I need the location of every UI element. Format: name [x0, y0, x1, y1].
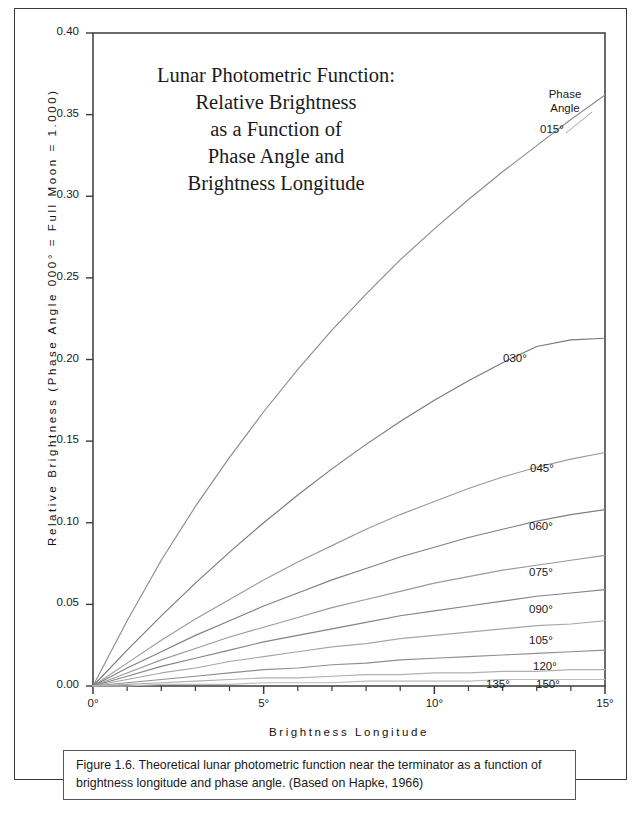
- y-tick-label: 0.25: [37, 270, 79, 282]
- legend-title-line-2: Angle: [530, 102, 600, 116]
- series-label-105°: 105°: [529, 634, 553, 646]
- series-label-075°: 075°: [529, 566, 553, 578]
- figure-caption-text: Figure 1.6. Theoretical lunar photometri…: [76, 757, 563, 792]
- series-label-120°: 120°: [533, 660, 557, 672]
- chart-title-line-4: Phase Angle and: [110, 143, 442, 170]
- chart-title-line-2: Relative Brightness: [110, 89, 442, 116]
- y-tick-label: 0.00: [37, 678, 79, 690]
- y-tick-label: 0.35: [37, 107, 79, 119]
- series-label-135°: 135°: [486, 678, 510, 690]
- y-tick-label: 0.20: [37, 352, 79, 364]
- series-label-045°: 045°: [530, 462, 554, 474]
- chart-title-line-3: as a Function of: [110, 116, 442, 143]
- legend-title: Phase Angle: [530, 88, 600, 115]
- chart-title-line-1: Lunar Photometric Function:: [110, 62, 442, 89]
- figure-caption-box: Figure 1.6. Theoretical lunar photometri…: [63, 750, 576, 800]
- x-axis-title: Brightness Longitude: [93, 726, 605, 738]
- chart-title: Lunar Photometric Function: Relative Bri…: [110, 62, 442, 197]
- legend-title-line-1: Phase: [530, 88, 600, 102]
- x-tick-label: 15°: [585, 697, 625, 709]
- x-tick-label: 5°: [244, 697, 284, 709]
- x-tick-label: 0°: [73, 697, 113, 709]
- y-tick-label: 0.05: [37, 596, 79, 608]
- series-label-015°: 015°: [540, 123, 564, 135]
- y-tick-label: 0.30: [37, 188, 79, 200]
- series-label-150°: 150°: [536, 678, 560, 690]
- series-label-060°: 060°: [529, 520, 553, 532]
- figure-page: Relative Brightness (Phase Angle 000° = …: [0, 0, 641, 813]
- y-tick-label: 0.40: [37, 25, 79, 37]
- x-tick-label: 10°: [414, 697, 454, 709]
- chart-plot-area: Relative Brightness (Phase Angle 000° = …: [0, 0, 641, 813]
- y-tick-label: 0.10: [37, 515, 79, 527]
- y-axis-ticks: [86, 33, 93, 686]
- series-label-030°: 030°: [503, 352, 527, 364]
- chart-title-line-5: Brightness Longitude: [110, 170, 442, 197]
- series-curve-120°: [93, 650, 605, 686]
- y-tick-label: 0.15: [37, 433, 79, 445]
- leader-line-015: [566, 112, 592, 133]
- x-axis-ticks: [93, 686, 605, 694]
- series-label-090°: 090°: [529, 603, 553, 615]
